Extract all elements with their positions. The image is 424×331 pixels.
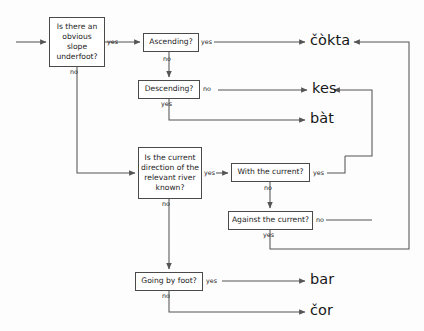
edge-label-foot-yes: yes: [206, 278, 217, 285]
node-ascending[interactable]: Ascending?: [143, 33, 199, 52]
edge-foot-no-cor: [169, 291, 305, 312]
edge-label-slope-no: no: [70, 69, 78, 76]
node-ascending-label: Ascending?: [149, 37, 192, 47]
output-cor: čor: [310, 303, 333, 318]
edge-with-yes-kes: [327, 156, 345, 173]
edge-with-yes-kes-join: [334, 90, 372, 156]
edge-label-with-no: no: [264, 185, 272, 192]
edge-label-against-no: no: [316, 217, 324, 224]
edge-label-river-yes: yes: [204, 170, 215, 177]
edge-label-river-no: no: [162, 201, 170, 208]
output-cokta: čòkta: [310, 33, 350, 48]
output-kes: kes: [312, 81, 337, 96]
flowchart-canvas: Is there an obvious slope underfoot? Asc…: [0, 0, 424, 331]
node-slope[interactable]: Is there an obvious slope underfoot?: [49, 17, 105, 67]
edge-label-foot-no: no: [162, 293, 170, 300]
node-river-direction[interactable]: Is the current direction of the relevant…: [138, 147, 202, 199]
edge-label-with-yes: yes: [313, 170, 324, 177]
edge-descending-yes-bat: [169, 99, 305, 120]
edge-label-ascending-yes: yes: [201, 39, 212, 46]
edge-label-against-yes: yes: [263, 232, 274, 239]
node-against-current[interactable]: Against the current?: [228, 211, 313, 230]
node-with-current[interactable]: With the current?: [231, 163, 310, 182]
edge-label-slope-yes: yes: [107, 39, 118, 46]
edge-label-ascending-no: no: [163, 56, 171, 63]
node-river-direction-label: Is the current direction of the relevant…: [141, 153, 199, 194]
node-slope-label: Is there an obvious slope underfoot?: [52, 22, 102, 63]
edge-label-descending-yes: yes: [161, 101, 172, 108]
node-descending-label: Descending?: [145, 84, 194, 94]
node-with-current-label: With the current?: [238, 167, 304, 177]
node-against-current-label: Against the current?: [232, 215, 309, 225]
output-bar: bar: [310, 272, 334, 287]
output-bat: bàt: [310, 111, 334, 126]
node-going-by-foot-label: Going by foot?: [141, 276, 196, 286]
node-descending[interactable]: Descending?: [138, 80, 200, 99]
edge-slope-no-river: [77, 67, 135, 173]
edge-label-descending-no: no: [203, 86, 211, 93]
node-going-by-foot[interactable]: Going by foot?: [135, 272, 203, 291]
